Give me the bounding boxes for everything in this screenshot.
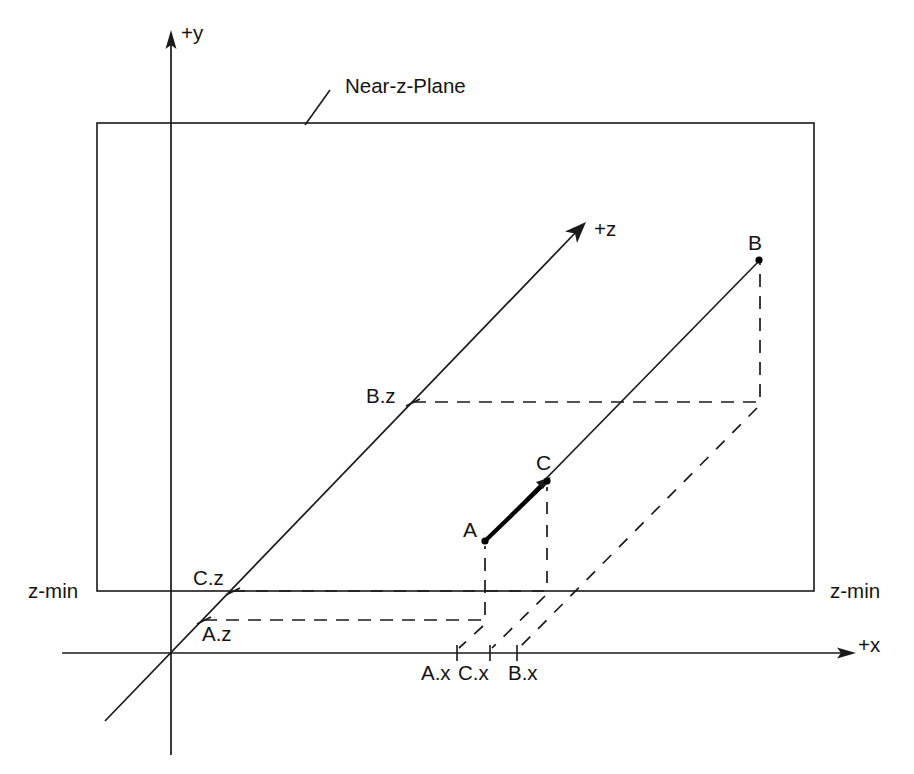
- c-z-label: C.z: [193, 566, 224, 589]
- z-min-left-label: z-min: [28, 579, 78, 602]
- point-c-label: C: [536, 451, 551, 474]
- y-axis-label: +y: [181, 21, 204, 44]
- b-x-projection-dashed: [519, 408, 757, 648]
- b-z-label: B.z: [366, 384, 396, 407]
- z-axis-label: +z: [594, 217, 616, 240]
- near-z-plane-leader-line: [305, 90, 330, 125]
- c-x-projection-dashed: [492, 596, 545, 648]
- point-b-dot: [755, 256, 762, 263]
- b-x-label: B.x: [508, 661, 538, 684]
- segment-a-to-c: [486, 482, 546, 540]
- a-x-projection-dashed: [459, 626, 483, 648]
- c-x-label: C.x: [458, 661, 490, 684]
- point-b-label: B: [748, 231, 762, 254]
- point-a-label: A: [463, 518, 477, 541]
- coordinate-system-diagram: +y +x +z Near-z-Plane z-min z-min A B C …: [0, 0, 914, 774]
- a-z-projection-dashed: [204, 546, 485, 620]
- diagram-canvas: +y +x +z Near-z-Plane z-min z-min A B C …: [0, 0, 914, 774]
- b-z-projection-dashed: [413, 262, 760, 402]
- a-x-label: A.x: [421, 661, 451, 684]
- a-z-label: A.z: [202, 622, 232, 645]
- point-a-dot: [481, 537, 488, 544]
- z-axis-line: [105, 230, 578, 721]
- x-axis-label: +x: [858, 633, 881, 656]
- near-z-plane-label: Near-z-Plane: [345, 74, 466, 97]
- point-c-dot: [543, 477, 550, 484]
- z-min-right-label: z-min: [830, 579, 880, 602]
